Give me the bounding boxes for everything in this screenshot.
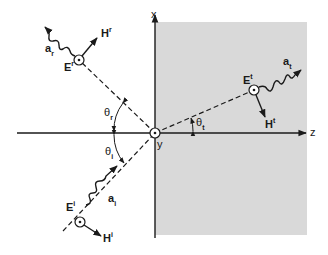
y-axis-label: y [157,139,163,150]
reflected-H-text: H [101,27,109,39]
transmitted-H-text: H [265,118,273,130]
incident-H-text: H [103,232,111,244]
incident-E-label: Ei [66,200,75,213]
reflected-H-arrow [82,38,97,56]
theta-i-label: θi [105,146,113,159]
theta-i-arc [114,135,124,163]
theta-r-label: θr [104,107,113,120]
reflected-H-label: Hr [101,26,112,39]
theta-i-subscript: i [111,153,113,160]
transmitted-E-superscript: t [250,73,252,80]
theta-t-label: θt [196,117,204,130]
theta-r-subscript: r [110,114,113,121]
transmitted-a-label: at [283,56,291,69]
incident-H-label: Hi [103,231,113,244]
transmitted-E-label: Et [243,73,253,86]
reflected-E-superscript: r [71,60,74,67]
reflected-ray [79,60,155,133]
x-axis-label: x [151,9,157,20]
incident-H-superscript: i [111,231,113,238]
theta-r-arc [114,103,123,131]
transmitted-H-label: Ht [265,117,275,130]
reflected-H-superscript: r [109,26,112,33]
transmitted-H-superscript: t [273,117,275,124]
z-axis-label: z [310,127,316,138]
theta-t-subscript: t [202,124,204,131]
incident-a-subscript: i [114,200,116,207]
incident-a-label: ai [108,193,116,206]
diagram-canvas [0,0,328,255]
reflected-a-subscript: r [51,50,54,57]
reflected-a-label: ar [45,43,54,56]
medium-2-region [155,22,307,235]
incident-H-arrow [84,225,101,236]
reflected-E-label: Er [64,60,74,73]
incident-E-superscript: i [73,200,75,207]
transmitted-a-subscript: t [289,63,291,70]
